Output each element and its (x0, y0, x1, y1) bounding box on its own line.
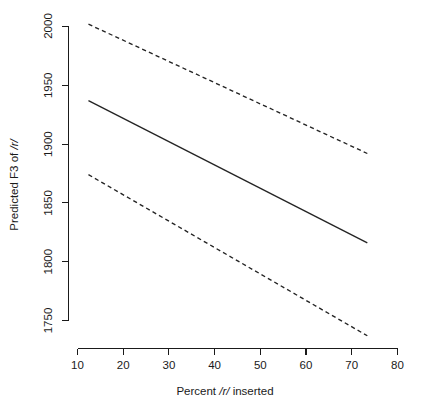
x-tick-label-60: 60 (300, 359, 313, 371)
y-axis-title: Predicted F3 of /r/ (8, 137, 20, 230)
y-tick-label-1850: 1850 (42, 190, 54, 216)
x-axis-title-prefix: Percent (176, 385, 219, 397)
x-tick-label-30: 30 (163, 359, 176, 371)
y-axis-title-prefix: Predicted F3 of (8, 150, 20, 231)
chart-plot-area: 2000 1950 1900 1850 1800 1750 10 20 30 4… (0, 0, 422, 412)
x-tick-label-40: 40 (208, 359, 221, 371)
y-axis-title-italic: /r/ (8, 137, 20, 150)
x-axis-title-suffix: inserted (229, 385, 273, 397)
x-axis-title: Percent /r/ inserted (176, 385, 273, 397)
x-axis-ticks (78, 349, 398, 356)
x-tick-label-50: 50 (254, 359, 267, 371)
y-tick-label-1750: 1750 (42, 308, 54, 334)
x-tick-label-80: 80 (391, 359, 404, 371)
y-tick-label-2000: 2000 (42, 13, 54, 39)
x-tick-label-20: 20 (117, 359, 130, 371)
x-axis-tick-labels: 10 20 30 40 50 60 70 80 (71, 359, 404, 371)
chart-figure: 2000 1950 1900 1850 1800 1750 10 20 30 4… (0, 0, 422, 412)
y-axis-ticks (62, 27, 69, 321)
y-axis-tick-labels: 2000 1950 1900 1850 1800 1750 (42, 13, 54, 333)
x-tick-label-10: 10 (71, 359, 84, 371)
data-series-group (88, 24, 367, 336)
predicted-fit-line (88, 101, 367, 243)
upper-confidence-line (88, 24, 367, 153)
lower-confidence-line (88, 175, 367, 336)
y-tick-label-1950: 1950 (42, 73, 54, 99)
x-tick-label-70: 70 (345, 359, 358, 371)
y-tick-label-1900: 1900 (42, 131, 54, 157)
y-tick-label-1800: 1800 (42, 249, 54, 275)
